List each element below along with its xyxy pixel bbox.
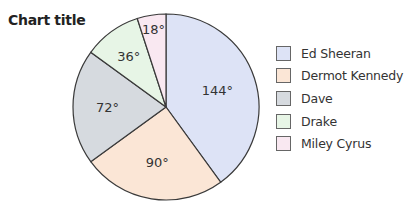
legend-label: Drake xyxy=(301,114,337,129)
slice-label: 18° xyxy=(142,22,165,37)
legend-swatch xyxy=(276,136,291,151)
legend-item-miley-cyrus: Miley Cyrus xyxy=(276,132,403,155)
legend-label: Dave xyxy=(301,91,333,106)
slice-label: 36° xyxy=(117,49,140,64)
legend-swatch xyxy=(276,68,291,83)
legend-item-ed-sheeran: Ed Sheeran xyxy=(276,42,403,65)
legend-label: Miley Cyrus xyxy=(301,136,371,151)
legend: Ed Sheeran Dermot Kennedy Dave Drake Mil… xyxy=(276,42,403,155)
slice-label: 72° xyxy=(96,100,119,115)
legend-label: Ed Sheeran xyxy=(301,46,371,61)
legend-swatch xyxy=(276,46,291,61)
legend-item-drake: Drake xyxy=(276,110,403,133)
legend-item-dave: Dave xyxy=(276,87,403,110)
slice-label: 90° xyxy=(146,155,169,170)
legend-swatch xyxy=(276,91,291,106)
legend-label: Dermot Kennedy xyxy=(301,68,403,83)
slice-label: 144° xyxy=(202,83,233,98)
legend-item-dermot-kennedy: Dermot Kennedy xyxy=(276,65,403,88)
legend-swatch xyxy=(276,114,291,129)
